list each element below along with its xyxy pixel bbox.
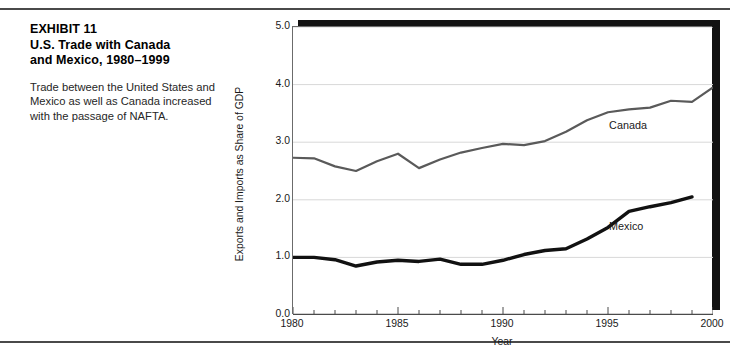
y-axis-title: Exports and Imports as Share of GDP bbox=[234, 0, 245, 74]
y-tick-label: 4.0 bbox=[262, 79, 290, 89]
y-tick-label: 2.0 bbox=[262, 194, 290, 204]
series-label-canada: Canada bbox=[609, 119, 647, 131]
plot-canvas bbox=[293, 27, 713, 315]
exhibit-title-line-3: and Mexico, 1980–1999 bbox=[30, 53, 230, 69]
x-tick-label: 2000 bbox=[692, 318, 730, 329]
exhibit-title-line-2: U.S. Trade with Canada bbox=[30, 38, 230, 54]
y-tick-label: 1.0 bbox=[262, 251, 290, 261]
top-divider bbox=[0, 8, 730, 10]
series-line-canada bbox=[293, 87, 713, 171]
y-tick-label: 3.0 bbox=[262, 136, 290, 146]
y-axis-ticks: 0.01.02.03.04.05.0 bbox=[260, 14, 290, 324]
x-tick-label: 1985 bbox=[377, 318, 417, 329]
exhibit-title: EXHIBIT 11 U.S. Trade with Canada and Me… bbox=[30, 22, 230, 69]
x-axis-title: Year bbox=[292, 336, 712, 347]
series-label-mexico: Mexico bbox=[609, 220, 643, 232]
x-tick-label: 1980 bbox=[272, 318, 312, 329]
caption-block: EXHIBIT 11 U.S. Trade with Canada and Me… bbox=[30, 22, 230, 123]
exhibit-figure: EXHIBIT 11 U.S. Trade with Canada and Me… bbox=[0, 0, 730, 349]
plot-area bbox=[292, 26, 712, 314]
chart: Exports and Imports as Share of GDP 0.01… bbox=[248, 14, 718, 324]
y-tick-label: 5.0 bbox=[262, 21, 290, 31]
exhibit-description: Trade between the United States and Mexi… bbox=[30, 80, 230, 124]
y-axis-title-text: Exports and Imports as Share of GDP bbox=[234, 74, 245, 274]
exhibit-title-line-1: EXHIBIT 11 bbox=[30, 22, 230, 38]
x-tick-label: 1990 bbox=[482, 318, 522, 329]
x-tick-label: 1995 bbox=[587, 318, 627, 329]
